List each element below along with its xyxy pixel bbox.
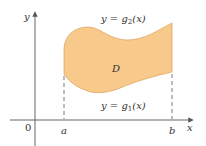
upper-label-prefix: y = — [100, 13, 121, 24]
x-axis-label: x — [187, 122, 193, 133]
region-d — [64, 23, 172, 93]
region-label: D — [111, 63, 120, 74]
lower-curve-label: y = g1(x) — [100, 100, 146, 113]
origin-label: 0 — [25, 122, 31, 133]
upper-curve-label: y = g2(x) — [100, 13, 146, 26]
lower-label-arg: (x) — [132, 100, 146, 111]
a-label: a — [61, 125, 67, 136]
lower-label-prefix: y = — [100, 100, 121, 111]
b-label: b — [169, 125, 175, 136]
upper-label-arg: (x) — [132, 13, 146, 24]
y-axis-label: y — [23, 11, 30, 22]
region-diagram: y x 0 a b D y = g2(x) y = g1(x) — [0, 0, 206, 146]
